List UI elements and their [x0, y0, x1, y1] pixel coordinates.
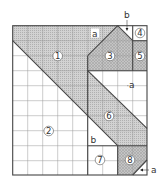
label-5: 5: [137, 51, 142, 61]
label-7: 7: [97, 155, 102, 165]
annotation-a-right: a: [129, 80, 135, 90]
label-8: 8: [127, 155, 132, 165]
annotation-b-top: b: [124, 10, 130, 20]
annotation-b-middle: b: [91, 135, 97, 145]
label-2: 2: [46, 126, 51, 136]
label-1: 1: [55, 51, 60, 61]
dissection-diagram: 1 2 3 4 5 6 7 8 a b a b a: [0, 0, 162, 183]
annotation-a-bottom: a: [151, 165, 157, 175]
label-4: 4: [137, 28, 142, 38]
label-3: 3: [107, 51, 112, 61]
label-6: 6: [106, 111, 111, 121]
annotation-a-top: a: [92, 29, 98, 39]
